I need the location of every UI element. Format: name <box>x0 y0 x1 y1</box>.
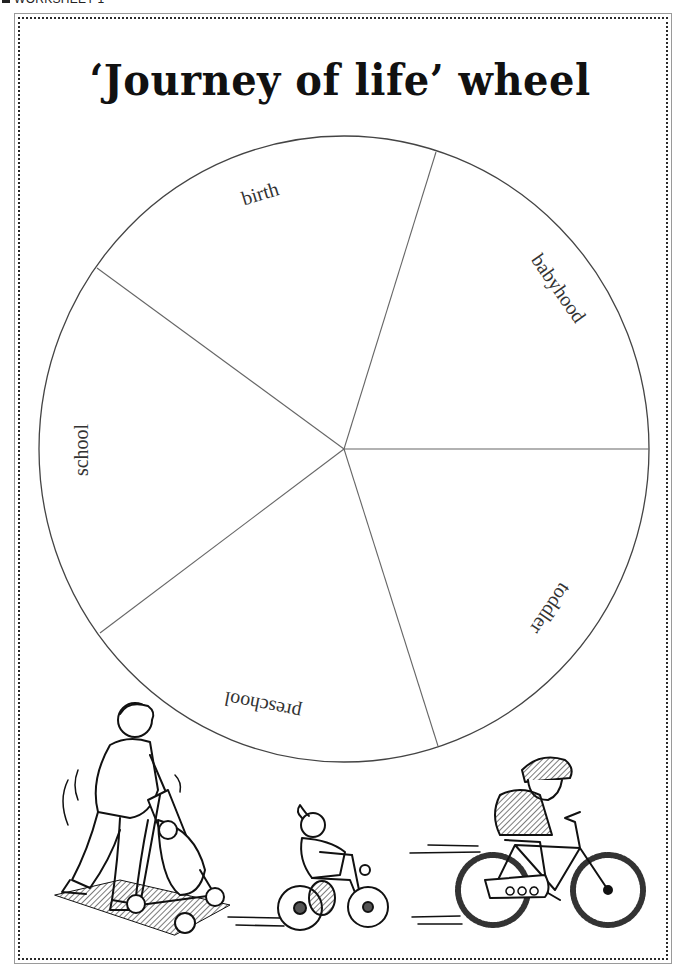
child-on-bicycle-illustration <box>410 758 643 925</box>
child-on-tricycle-illustration <box>228 805 388 930</box>
illustrations <box>0 0 680 972</box>
parent-with-pram-illustration <box>55 703 230 935</box>
